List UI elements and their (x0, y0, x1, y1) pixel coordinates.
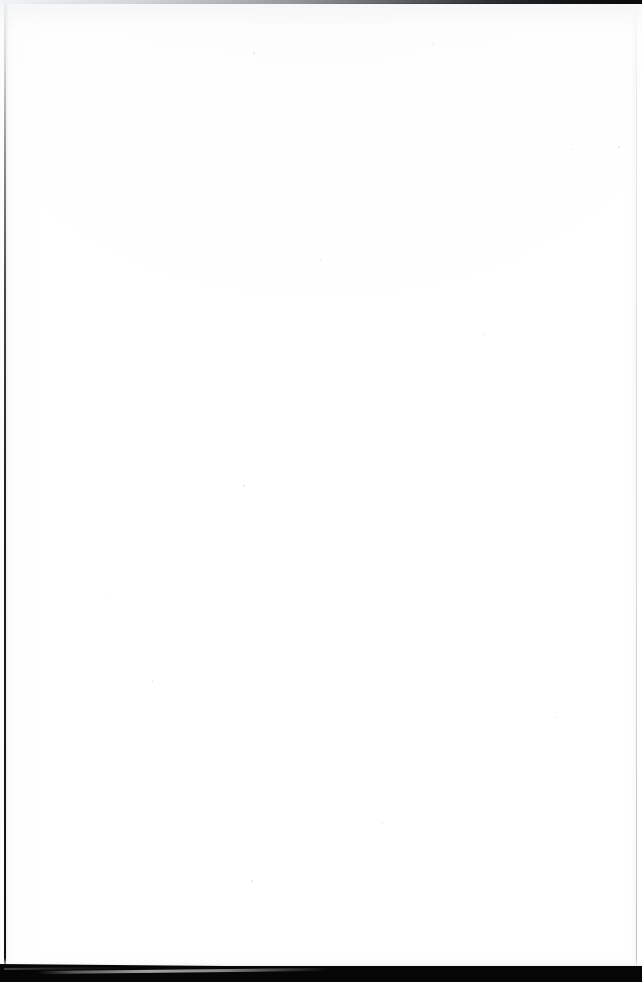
left-page-edge-line (4, 4, 6, 968)
scan-speck (251, 880, 253, 882)
scan-speck (243, 485, 245, 487)
scan-speck (320, 259, 321, 261)
paper-tone-overlay (0, 4, 642, 968)
right-page-edge-line (636, 4, 637, 968)
scanned-page (0, 0, 642, 982)
scan-speck (152, 680, 153, 682)
scan-speck (484, 334, 485, 336)
scan-speck (572, 149, 574, 150)
scan-speck (618, 146, 620, 148)
page-sheet (0, 4, 642, 968)
scan-speck (433, 43, 434, 46)
scan-speck (382, 822, 383, 824)
scan-speck (253, 52, 255, 54)
left-edge-softening (6, 4, 9, 968)
scan-speck (556, 717, 558, 718)
scan-speck (108, 596, 109, 597)
